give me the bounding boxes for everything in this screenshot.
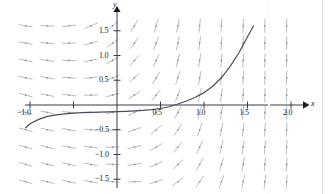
field-node-dot (264, 181, 266, 183)
field-node-dot (221, 146, 223, 148)
field-node-dot (242, 94, 244, 96)
field-node-dot (177, 25, 179, 27)
x-tick-label: 1.5 (240, 108, 249, 117)
field-node-dot (221, 129, 223, 131)
page-edge (322, 0, 323, 194)
field-node-dot (47, 181, 49, 183)
x-axis-arrowhead (303, 101, 310, 109)
field-node-dot (155, 164, 157, 166)
axes (25, 6, 310, 188)
field-node-dot (221, 164, 223, 166)
field-node-dot (134, 146, 136, 148)
field-node-dot (68, 94, 70, 96)
field-node-dot (264, 112, 266, 114)
field-node-dot (199, 25, 201, 27)
field-node-dot (90, 94, 92, 96)
field-node-dot (25, 77, 27, 79)
y-tick-label: −1.5 (95, 174, 109, 183)
field-node-dot (112, 60, 114, 62)
field-node-dot (25, 60, 27, 62)
field-node-dot (90, 77, 92, 79)
field-node-dot (47, 94, 49, 96)
field-node-dot (286, 25, 288, 27)
field-node-dot (47, 129, 49, 131)
x-tick-label: −1.0 (17, 108, 31, 117)
field-node-dot (242, 181, 244, 183)
field-node-dot (47, 42, 49, 44)
field-node-dot (286, 60, 288, 62)
field-node-dot (221, 25, 223, 27)
field-node-dot (134, 129, 136, 131)
field-node-dot (68, 146, 70, 148)
field-node-dot (177, 94, 179, 96)
field-node-dot (177, 129, 179, 131)
field-node-dot (264, 164, 266, 166)
field-node-dot (155, 60, 157, 62)
x-axis-label: x (311, 99, 315, 108)
field-node-dot (221, 181, 223, 183)
y-tick-label: −0.5 (95, 125, 109, 134)
field-node-dot (68, 129, 70, 131)
solution-curve (26, 26, 254, 128)
x-tick-label: 0.5 (153, 108, 162, 117)
field-node-dot (47, 60, 49, 62)
field-node-dot (242, 146, 244, 148)
field-node-dot (155, 77, 157, 79)
field-node-dot (221, 94, 223, 96)
field-node-dot (134, 164, 136, 166)
field-node-dot (25, 181, 27, 183)
field-node-dot (25, 94, 27, 96)
field-node-dot (155, 42, 157, 44)
field-node-dot (90, 60, 92, 62)
field-node-dot (112, 181, 114, 183)
field-node-dot (155, 129, 157, 131)
field-node-dot (155, 94, 157, 96)
field-node-dot (112, 25, 114, 27)
field-node-dot (242, 60, 244, 62)
field-node-dot (264, 146, 266, 148)
y-axis-label: y (113, 0, 117, 9)
field-node-dot (221, 60, 223, 62)
field-node-dot (242, 164, 244, 166)
field-node-dot (90, 181, 92, 183)
field-node-dot (47, 77, 49, 79)
field-node-dot (25, 164, 27, 166)
field-node-dot (177, 164, 179, 166)
field-node-dot (221, 42, 223, 44)
field-node-dot (68, 25, 70, 27)
field-node-dot (47, 112, 49, 114)
page-seam (268, 0, 270, 194)
field-node-dot (286, 146, 288, 148)
field-node-dot (264, 25, 266, 27)
field-node-dot (47, 146, 49, 148)
field-node-dot (68, 181, 70, 183)
field-node-dot (155, 146, 157, 148)
field-node-dot (134, 94, 136, 96)
field-node-dot (112, 129, 114, 131)
field-node-dot (25, 42, 27, 44)
field-node-dot (264, 94, 266, 96)
direction-field-figure: −1.00.51.01.52.01.51.00.5−0.5−1.0−1.5 y … (0, 0, 330, 194)
field-node-dot (68, 164, 70, 166)
field-node-dot (264, 129, 266, 131)
field-node-dot (242, 25, 244, 27)
field-node-dot (199, 77, 201, 79)
y-tick-label: 1.5 (99, 26, 108, 35)
field-node-dot (177, 60, 179, 62)
field-node-dot (177, 77, 179, 79)
field-node-dot (242, 129, 244, 131)
field-node-dot (112, 42, 114, 44)
field-node-dot (47, 164, 49, 166)
field-node-dot (286, 42, 288, 44)
field-node-dot (90, 25, 92, 27)
field-node-dot (286, 181, 288, 183)
field-node-dot (90, 146, 92, 148)
field-node-dot (221, 112, 223, 114)
field-node-dot (199, 60, 201, 62)
field-node-dot (199, 164, 201, 166)
field-node-dot (25, 129, 27, 131)
field-node-dot (90, 42, 92, 44)
field-node-dot (286, 164, 288, 166)
field-node-dot (177, 146, 179, 148)
y-tick-label: −1.0 (95, 150, 109, 159)
